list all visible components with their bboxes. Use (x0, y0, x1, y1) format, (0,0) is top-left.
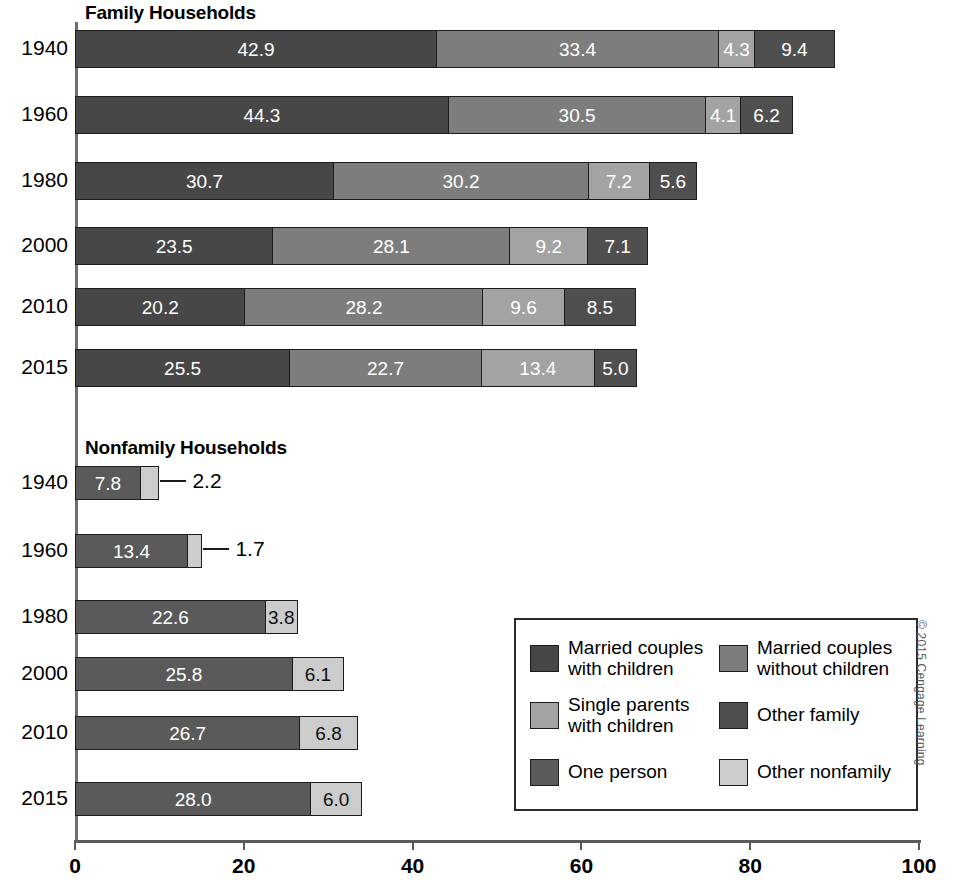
segment-value-label: 28.2 (345, 298, 382, 317)
segment-value-label: 30.7 (186, 172, 223, 191)
x-axis-tick-80 (749, 840, 751, 850)
x-axis-tick-20 (243, 840, 245, 850)
segment-value-label: 5.6 (660, 172, 686, 191)
legend-label-one-person: One person (568, 762, 667, 783)
segment-value-label: 22.7 (367, 359, 404, 378)
segment-value-label: 6.8 (315, 724, 341, 743)
legend-label-married-without-children: Married coupleswithout children (757, 638, 892, 679)
legend: Married coupleswith childrenMarried coup… (514, 618, 918, 811)
legend-item-one-person[interactable]: One person (530, 744, 719, 801)
bar-segment-single-parents: 4.1 (706, 96, 741, 134)
x-axis-tick-0 (74, 840, 76, 850)
bar-segment-married-with-children: 25.5 (75, 349, 290, 387)
x-axis-tick-label-40: 40 (401, 854, 424, 878)
legend-swatch-one-person (530, 759, 559, 786)
x-axis-tick-60 (580, 840, 582, 850)
bar-segment-other-family: 5.6 (650, 162, 697, 200)
legend-label-other-family: Other family (757, 705, 859, 726)
legend-item-married-without-children[interactable]: Married coupleswithout children (719, 630, 908, 687)
year-label-family-2015: 2015 (10, 355, 68, 379)
bar-segment-married-with-children: 23.5 (75, 227, 273, 265)
bar-segment-other-nonfamily (188, 534, 202, 568)
bar-segment-one-person: 22.6 (75, 600, 266, 634)
legend-swatch-married-with-children (530, 645, 559, 672)
family-households-title: Family Households (85, 2, 256, 24)
year-label-family-1960: 1960 (10, 102, 68, 126)
segment-value-label: 9.2 (536, 237, 562, 256)
x-axis-tick-40 (412, 840, 414, 850)
year-label-nonfamily-2010: 2010 (10, 720, 68, 744)
segment-callout-other-nonfamily: 1.7 (203, 537, 264, 561)
segment-value-label: 7.2 (606, 172, 632, 191)
legend-item-other-family[interactable]: Other family (719, 687, 908, 744)
year-label-family-2010: 2010 (10, 294, 68, 318)
bar-family-2015: 25.522.713.45.0 (75, 349, 637, 387)
segment-value-label: 33.4 (559, 40, 596, 59)
segment-value-label: 28.0 (175, 790, 212, 809)
bar-family-1940: 42.933.44.39.4 (75, 30, 835, 68)
year-label-nonfamily-1960: 1960 (10, 538, 68, 562)
bar-segment-other-family: 9.4 (755, 30, 834, 68)
year-label-nonfamily-2000: 2000 (10, 661, 68, 685)
x-axis-tick-label-60: 60 (570, 854, 593, 878)
bar-segment-other-family: 5.0 (595, 349, 637, 387)
year-label-nonfamily-2015: 2015 (10, 786, 68, 810)
legend-item-married-with-children[interactable]: Married coupleswith children (530, 630, 719, 687)
bar-nonfamily-1980: 22.63.8 (75, 600, 298, 634)
bar-segment-one-person: 7.8 (75, 466, 141, 500)
bar-segment-single-parents: 7.2 (589, 162, 650, 200)
legend-swatch-single-parents (530, 702, 559, 729)
bar-segment-other-nonfamily (141, 466, 160, 500)
segment-value-label: 6.2 (753, 106, 779, 125)
segment-value-label: 26.7 (169, 724, 206, 743)
x-axis-tick-label-20: 20 (232, 854, 255, 878)
segment-value-label: 8.5 (587, 298, 613, 317)
bar-segment-single-parents: 9.6 (483, 288, 564, 326)
year-label-family-1940: 1940 (10, 36, 68, 60)
stacked-bar-chart: Family Households Nonfamily Households 1… (0, 0, 965, 891)
callout-value-label: 2.2 (192, 469, 221, 493)
legend-label-other-nonfamily: Other nonfamily (757, 762, 891, 783)
bar-segment-other-nonfamily: 6.8 (300, 716, 357, 750)
segment-value-label: 13.4 (519, 359, 556, 378)
bar-nonfamily-2015: 28.06.0 (75, 782, 362, 816)
callout-leader-line (203, 548, 229, 550)
segment-value-label: 5.0 (602, 359, 628, 378)
bar-segment-married-without-children: 30.2 (334, 162, 589, 200)
segment-value-label: 22.6 (152, 608, 189, 627)
bar-segment-single-parents: 4.3 (719, 30, 755, 68)
bar-segment-married-without-children: 28.1 (273, 227, 510, 265)
bar-segment-one-person: 26.7 (75, 716, 300, 750)
bar-family-2010: 20.228.29.68.5 (75, 288, 636, 326)
year-label-nonfamily-1940: 1940 (10, 470, 68, 494)
segment-value-label: 3.8 (268, 608, 294, 627)
bar-segment-married-without-children: 30.5 (449, 96, 706, 134)
callout-leader-line (160, 480, 186, 482)
legend-item-other-nonfamily[interactable]: Other nonfamily (719, 744, 908, 801)
bar-segment-married-with-children: 30.7 (75, 162, 334, 200)
bar-segment-other-family: 8.5 (565, 288, 637, 326)
segment-value-label: 7.1 (604, 237, 630, 256)
x-axis-tick-100 (918, 840, 920, 850)
bar-segment-single-parents: 13.4 (482, 349, 595, 387)
nonfamily-households-title: Nonfamily Households (85, 437, 287, 459)
x-axis-tick-label-80: 80 (739, 854, 762, 878)
bar-nonfamily-2000: 25.86.1 (75, 657, 344, 691)
segment-value-label: 42.9 (238, 40, 275, 59)
segment-value-label: 25.5 (164, 359, 201, 378)
segment-value-label: 28.1 (373, 237, 410, 256)
bar-nonfamily-2010: 26.76.8 (75, 716, 358, 750)
bar-nonfamily-1940: 7.8 (75, 466, 159, 500)
bar-segment-other-family: 7.1 (588, 227, 648, 265)
year-label-family-1980: 1980 (10, 168, 68, 192)
bar-segment-single-parents: 9.2 (510, 227, 588, 265)
segment-value-label: 9.6 (510, 298, 536, 317)
segment-value-label: 4.1 (710, 106, 736, 125)
bar-family-1960: 44.330.54.16.2 (75, 96, 793, 134)
bar-segment-one-person: 25.8 (75, 657, 293, 691)
legend-item-single-parents[interactable]: Single parentswith children (530, 687, 719, 744)
year-label-family-2000: 2000 (10, 233, 68, 257)
segment-value-label: 30.5 (559, 106, 596, 125)
segment-value-label: 44.3 (243, 106, 280, 125)
segment-value-label: 6.0 (323, 790, 349, 809)
